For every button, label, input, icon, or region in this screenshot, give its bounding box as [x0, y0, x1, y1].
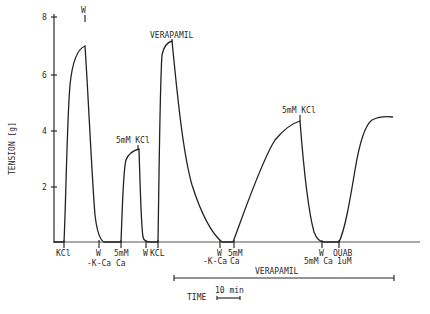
annotation-kcl-5mm-2: 5mM KCl — [282, 106, 316, 115]
event-minus-k-ca-1: -K-Ca — [87, 259, 111, 268]
event-ouab-dose: 1uM — [337, 257, 352, 266]
time-label: TIME — [187, 293, 206, 302]
y-tick-8: 8 — [42, 13, 47, 22]
event-kcl: KCl — [56, 249, 71, 258]
annotation-kcl-5mm-1: 5mM KCl — [116, 136, 150, 145]
y-axis-label: TENSION [g] — [8, 122, 17, 175]
annotation-verapamil: VERAPAMIL — [150, 31, 194, 40]
annotation-w1: W — [81, 6, 86, 15]
verapamil-bar-label: VERAPAMIL — [255, 267, 299, 276]
y-tick-4: 4 — [42, 127, 47, 136]
event-ca-2: Ca — [230, 257, 240, 266]
verapamil-bar: VERAPAMIL — [174, 267, 394, 281]
time-scale: TIME 10 min — [187, 286, 244, 302]
y-ticks: 2 4 6 8 — [42, 13, 57, 192]
y-tick-2: 2 — [42, 183, 47, 192]
event-w-1: W — [96, 249, 101, 258]
tension-trace — [54, 41, 393, 242]
event-w-2: W — [143, 249, 148, 258]
event-minus-k-ca-2: -K-Ca — [203, 257, 227, 266]
event-ca-1: Ca — [116, 259, 126, 268]
y-tick-6: 6 — [42, 71, 47, 80]
time-scale-label: 10 min — [215, 286, 244, 295]
event-kcl-2: KCL — [150, 249, 165, 258]
event-5mm-ca-3: 5mM Ca — [304, 257, 333, 266]
event-5mm-1: 5mM — [114, 249, 129, 258]
tension-chart: 2 4 6 8 TENSION [g] W 5mM KCl VERAPAMIL … — [0, 0, 430, 314]
top-annotations: W 5mM KCl VERAPAMIL 5mM KCl — [81, 6, 316, 149]
event-markers: KCl W -K-Ca 5mM Ca W KCL W -K-Ca 5mM Ca … — [56, 240, 352, 268]
